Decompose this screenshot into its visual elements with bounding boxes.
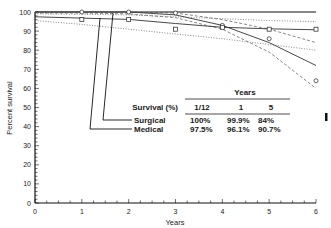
table-col-2: 1 <box>239 103 244 112</box>
table-header-years: Years <box>234 88 256 97</box>
table-medical-1: 96.1% <box>227 125 250 134</box>
y-tick-label: 10 <box>23 180 31 187</box>
table-surgical-5: 84% <box>258 116 274 125</box>
x-tick-label: 6 <box>314 208 318 215</box>
edge-mark <box>325 113 328 121</box>
y-tick-label: 30 <box>23 142 31 149</box>
y-tick-label: 50 <box>23 104 31 111</box>
medical-point <box>267 27 271 31</box>
table-col-1: 1/12 <box>194 103 210 112</box>
table-medical-5: 90.7% <box>258 125 281 134</box>
y-tick-label: 100 <box>19 9 31 16</box>
surgical-point <box>127 10 131 14</box>
table-col-3: 5 <box>269 103 274 112</box>
y-tick-label: 0 <box>27 200 31 207</box>
inset-table: Years Survival (%) 1/12 1 5 Surgical 100… <box>132 88 290 134</box>
ci-lower-medical <box>35 21 316 51</box>
y-tick-label: 40 <box>23 123 31 130</box>
surgical-point <box>80 10 84 14</box>
y-tick-label: 60 <box>23 85 31 92</box>
y-tick-label: 70 <box>23 66 31 73</box>
x-tick-label: 5 <box>267 208 271 215</box>
x-tick-label: 0 <box>33 208 37 215</box>
y-tick-label: 20 <box>23 161 31 168</box>
fitted-curve-surgical <box>35 12 316 66</box>
medical-point <box>220 25 224 29</box>
table-row-medical-label: Medical <box>134 125 163 134</box>
table-medical-1-12: 97.5% <box>190 125 213 134</box>
x-tick-label: 4 <box>220 208 224 215</box>
surgical-point <box>267 37 271 41</box>
medical-point <box>314 27 318 31</box>
table-surgical-1-12: 100% <box>190 116 210 125</box>
table-row-surgical-label: Surgical <box>134 116 166 125</box>
y-tick-label: 90 <box>23 28 31 35</box>
leader-surgical <box>103 13 132 120</box>
medical-point <box>80 18 84 22</box>
survival-curves <box>35 12 316 88</box>
table-surgical-1: 99.9% <box>227 116 250 125</box>
leader-lines <box>90 13 132 129</box>
x-tick-label: 1 <box>80 208 84 215</box>
surgical-point <box>314 79 318 83</box>
x-tick-label: 3 <box>174 208 178 215</box>
x-tick-label: 2 <box>127 208 131 215</box>
y-axis-title: Percent survival <box>5 81 14 135</box>
table-row-header: Survival (%) <box>132 103 178 112</box>
medical-point <box>127 18 131 22</box>
medical-point <box>174 27 178 31</box>
survival-chart: 01020304050607080901000123456 Years Surv… <box>0 0 331 228</box>
y-tick-label: 80 <box>23 47 31 54</box>
x-axis-title: Years <box>166 218 185 227</box>
surgical-point <box>174 11 178 15</box>
